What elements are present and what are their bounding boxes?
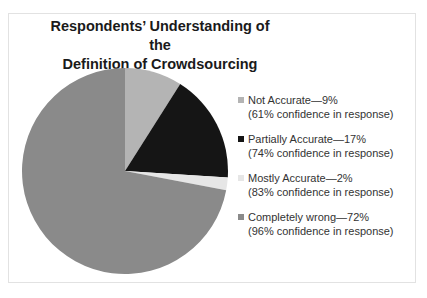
chart-title-line-1: Respondents’ Understanding of the: [40, 17, 280, 55]
legend-sub: (61% confidence in response): [248, 107, 394, 121]
legend-swatch: [238, 214, 244, 220]
legend-label: Mostly Accurate—2%: [248, 171, 394, 185]
pie-chart: [20, 66, 230, 276]
legend-sub: (83% confidence in response): [248, 185, 394, 199]
legend-swatch: [238, 97, 244, 103]
legend-swatch: [238, 175, 244, 181]
legend-item-partially-accurate: Partially Accurate—17% (74% confidence i…: [238, 132, 394, 160]
legend-sub: (96% confidence in response): [248, 224, 394, 238]
legend-item-not-accurate: Not Accurate—9% (61% confidence in respo…: [238, 93, 394, 121]
legend-sub: (74% confidence in response): [248, 146, 394, 160]
legend-item-mostly-accurate: Mostly Accurate—2% (83% confidence in re…: [238, 171, 394, 199]
legend-swatch: [238, 136, 244, 142]
legend-label: Completely wrong—72%: [248, 210, 394, 224]
legend-label: Partially Accurate—17%: [248, 132, 394, 146]
legend-label: Not Accurate—9%: [248, 93, 394, 107]
legend: Not Accurate—9% (61% confidence in respo…: [238, 93, 394, 249]
legend-item-completely-wrong: Completely wrong—72% (96% confidence in …: [238, 210, 394, 238]
